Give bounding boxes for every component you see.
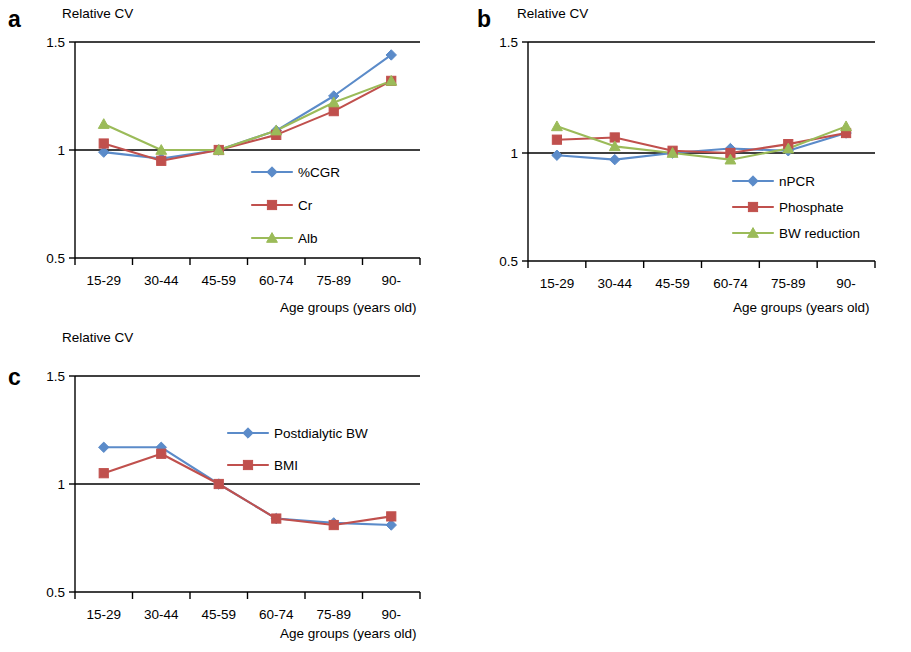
y-tick-label: 0.5 — [46, 585, 65, 600]
x-axis-title-b: Age groups (years old) — [733, 300, 870, 315]
data-point — [99, 469, 108, 478]
data-point — [272, 514, 281, 523]
legend-marker-square-icon — [267, 200, 276, 209]
data-point — [98, 119, 109, 129]
legend-label: nPCR — [779, 174, 815, 189]
data-point — [552, 135, 561, 144]
legend-label: BMI — [274, 458, 298, 473]
x-axis-title-c: Age groups (years old) — [280, 626, 417, 641]
chart-c: 0.511.515-2930-4445-5960-7475-8990-Postd… — [0, 348, 455, 648]
series-line-alb — [104, 81, 392, 150]
x-tick-label: 90- — [381, 607, 401, 622]
x-tick-label: 90- — [381, 273, 401, 288]
x-tick-label: 45-59 — [201, 607, 236, 622]
data-point — [329, 107, 338, 116]
legend-marker-diamond-icon — [243, 428, 253, 438]
data-point — [329, 520, 338, 529]
data-point — [610, 154, 620, 164]
series-line-cr — [104, 81, 392, 161]
x-tick-label: 30-44 — [144, 607, 179, 622]
panel-b: b Relative CV 0.511.515-2930-4445-5960-7… — [455, 0, 911, 326]
x-tick-label: 15-29 — [540, 276, 575, 291]
data-point — [214, 479, 223, 488]
y-axis-title-c: Relative CV — [62, 330, 133, 345]
x-tick-label: 15-29 — [86, 273, 121, 288]
y-tick-label: 1 — [57, 477, 65, 492]
x-tick-label: 45-59 — [201, 273, 236, 288]
x-tick-label: 15-29 — [86, 607, 121, 622]
legend-marker-square-icon — [243, 460, 252, 469]
x-tick-label: 30-44 — [144, 273, 179, 288]
x-tick-label: 75-89 — [316, 273, 351, 288]
x-axis-title-a: Age groups (years old) — [280, 300, 417, 315]
x-tick-label: 60-74 — [259, 607, 294, 622]
panel-c: c Relative CV 0.511.515-2930-4445-5960-7… — [0, 326, 455, 652]
series-line-bw-reduction — [557, 126, 846, 159]
data-point — [157, 449, 166, 458]
x-tick-label: 60-74 — [259, 273, 294, 288]
data-point — [387, 512, 396, 521]
data-point — [552, 150, 562, 160]
x-tick-label: 30-44 — [597, 276, 632, 291]
x-tick-label: 75-89 — [316, 607, 351, 622]
legend-label: BW reduction — [779, 226, 860, 241]
x-tick-label: 60-74 — [713, 276, 748, 291]
y-tick-label: 1.5 — [499, 35, 518, 50]
legend-label: Alb — [298, 231, 318, 246]
x-tick-label: 90- — [836, 276, 856, 291]
legend-label: Phosphate — [779, 200, 844, 215]
legend-marker-diamond-icon — [748, 176, 758, 186]
panel-a: a Relative CV 0.511.515-2930-4445-5960-7… — [0, 0, 455, 326]
data-point — [552, 121, 563, 131]
data-point — [99, 442, 109, 452]
data-point — [841, 121, 852, 131]
y-tick-label: 1 — [57, 143, 65, 158]
data-point — [99, 139, 108, 148]
legend-label: Cr — [298, 198, 313, 213]
y-tick-label: 0.5 — [46, 251, 65, 266]
legend-label: Postdialytic BW — [274, 426, 368, 441]
y-axis-title-a: Relative CV — [62, 6, 133, 21]
y-axis-title-b: Relative CV — [517, 6, 588, 21]
x-tick-label: 75-89 — [771, 276, 806, 291]
legend-marker-diamond-icon — [267, 167, 277, 177]
y-tick-label: 0.5 — [499, 254, 518, 269]
legend-marker-square-icon — [748, 202, 757, 211]
chart-b: 0.511.515-2930-4445-5960-7475-8990-nPCRP… — [455, 22, 911, 322]
y-tick-label: 1.5 — [46, 35, 65, 50]
legend-label: %CGR — [298, 165, 340, 180]
x-tick-label: 45-59 — [655, 276, 690, 291]
chart-a: 0.511.515-2930-4445-5960-7475-8990-%CGRC… — [0, 22, 455, 322]
y-tick-label: 1.5 — [46, 369, 65, 384]
y-tick-label: 1 — [510, 146, 518, 161]
data-point — [157, 156, 166, 165]
